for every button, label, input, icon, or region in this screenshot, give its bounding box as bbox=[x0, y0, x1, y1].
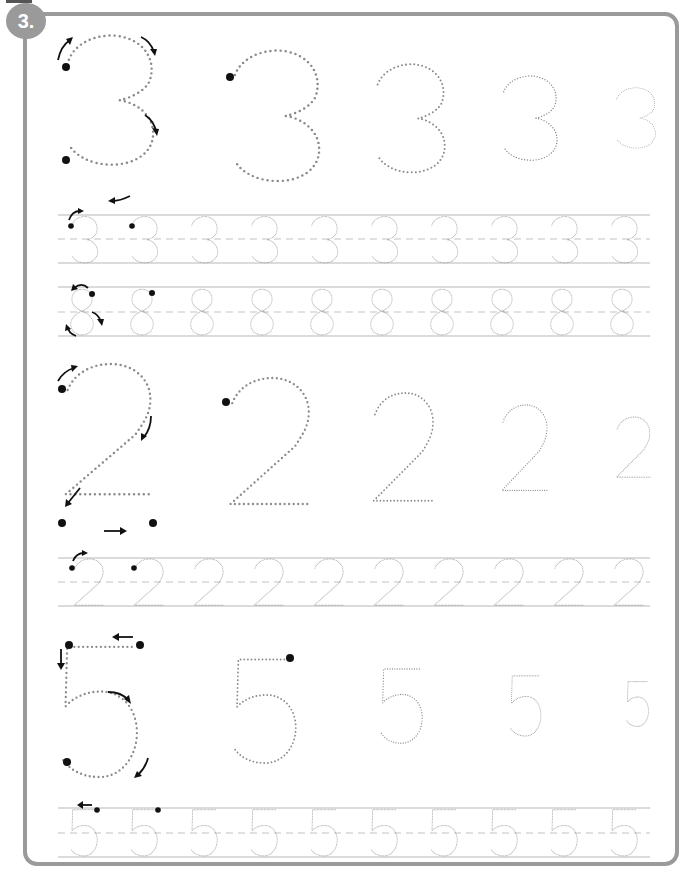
tracing-worksheet: 3. bbox=[0, 0, 690, 876]
start-dot bbox=[149, 519, 157, 527]
model-digit-2-medium bbox=[374, 393, 433, 501]
model-digit-3-xs bbox=[617, 88, 656, 148]
model-digit-2-large bbox=[230, 378, 308, 504]
model-digit-5-small bbox=[510, 676, 541, 736]
model-digit-5-large bbox=[234, 659, 296, 763]
start-dot bbox=[62, 63, 70, 71]
start-dot bbox=[136, 641, 144, 649]
model-digit-5-xs bbox=[627, 682, 649, 727]
start-dot bbox=[65, 641, 73, 649]
model-digit-3-xl bbox=[69, 36, 153, 165]
start-dot bbox=[226, 73, 234, 81]
model-digit-3-large bbox=[235, 51, 319, 182]
start-dot bbox=[58, 519, 66, 527]
start-dot bbox=[222, 398, 230, 406]
model-digit-3-small bbox=[504, 76, 557, 160]
start-dot bbox=[63, 758, 71, 766]
model-digit-2-xs bbox=[616, 417, 649, 477]
section-digit-2 bbox=[58, 364, 650, 606]
model-digit-3-medium bbox=[378, 64, 445, 172]
section-digit-5 bbox=[57, 633, 650, 857]
model-digit-2-xl bbox=[66, 364, 151, 494]
stroke-direction-arrow bbox=[57, 633, 148, 778]
model-digit-5-medium bbox=[381, 669, 422, 743]
practice-row-2 bbox=[58, 550, 650, 606]
stroke-direction-arrow bbox=[58, 37, 159, 204]
start-dot bbox=[62, 156, 70, 164]
tracing-canvas bbox=[0, 0, 690, 876]
start-dot bbox=[58, 385, 66, 393]
practice-row-8 bbox=[58, 284, 650, 336]
practice-row-5 bbox=[58, 801, 650, 857]
start-dot bbox=[286, 654, 294, 662]
practice-row-3 bbox=[58, 208, 650, 263]
model-digit-5-xl bbox=[62, 647, 137, 777]
model-digit-2-small bbox=[502, 405, 547, 490]
section-digit-3 bbox=[58, 36, 655, 336]
stroke-direction-arrow bbox=[58, 365, 151, 535]
